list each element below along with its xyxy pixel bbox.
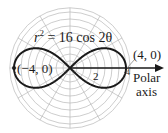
point-label-left: (−4, 0) <box>17 61 53 76</box>
tick-label-4: 4 <box>126 68 130 77</box>
axis-label-line1: Polar <box>133 70 161 85</box>
tick-label-2: 2 <box>93 70 99 82</box>
point-label-right: (4, 0) <box>133 47 161 62</box>
polar-graph: r2 = 16 cos 2θ (4, 0) (−4, 0) 2 4 Polar … <box>0 0 168 133</box>
axis-label-line2: axis <box>136 84 157 99</box>
equation-label: r2 = 16 cos 2θ <box>34 28 113 45</box>
polar-plot: r2 = 16 cos 2θ (4, 0) (−4, 0) 2 4 Polar … <box>0 0 168 133</box>
point-dot-left <box>12 66 16 70</box>
